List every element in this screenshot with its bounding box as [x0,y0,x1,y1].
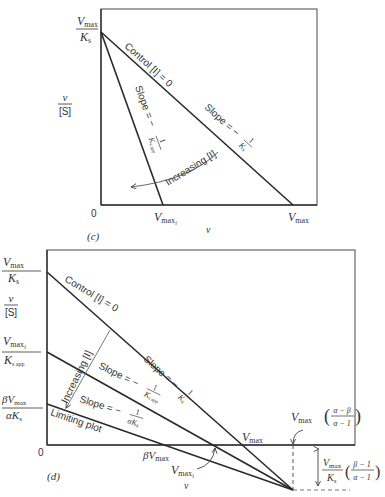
svg-text:): ) [355,406,361,427]
svg-text:): ) [375,463,380,481]
increasing-label: Increasing [I] [163,148,218,188]
y-intercept-label: Vmax Ks [76,14,98,45]
svg-text:Slope = −: Slope = − [142,353,181,390]
svg-text:Vmaxi: Vmaxi [3,334,26,350]
svg-text:Ks app: Ks app [146,135,160,154]
svg-text:v: v [63,91,68,103]
intersection-y-label: Vmax Ks ( β − 1 α − 1 ) [322,457,380,485]
svg-text:Vmax: Vmax [291,410,312,425]
y-axis-label: v [S] [4,292,18,318]
svg-text:αKs: αKs [6,409,22,423]
x-axis-label: v [206,224,211,235]
svg-text:βVmax: βVmax [1,393,27,407]
x-intercept-limiting: βVmax [142,449,169,463]
origin-label: 0 [38,447,44,458]
x-axis-label: v [184,480,189,491]
svg-text:Slope = −: Slope = − [203,101,242,138]
svg-text:1: 1 [134,407,140,417]
intersection-x-label: Vmax ( α − β α − 1 ) [291,406,361,428]
svg-text:Slope = −: Slope = − [133,84,158,128]
x-intercept-inhibited: Vmaxi [154,210,177,226]
panel-d: Vmax Ks v [S] Vmaxi Ks app βVmax αKs Con… [1,250,380,491]
limiting-plot-label: Limiting plot [49,406,103,434]
panel-caption: (d) [47,470,60,483]
svg-text:Vmax: Vmax [77,14,98,29]
slope-inhibited-label: Slope = − 1 Ks app [128,83,170,155]
svg-text:1: 1 [158,137,168,144]
x-intercept-inhibited: Vmaxi [171,463,194,479]
svg-text:(: ( [345,463,350,481]
svg-text:αKs: αKs [126,416,141,428]
x-intercept-control: Vmax [242,430,263,445]
svg-text:α − 1: α − 1 [333,419,351,428]
svg-text:α − 1: α − 1 [353,473,371,482]
y-intercept-control-label: Vmax Ks [2,255,41,286]
intersection-x-pointer [293,430,303,444]
control-line [101,32,293,205]
svg-text:α − β: α − β [333,406,351,415]
svg-text:Ks app: Ks app [142,389,161,405]
y-intercept-limiting-label: βVmax αKs [1,393,43,423]
vmaxi-pointer [197,448,215,469]
x-intercept-control: Vmax [288,210,309,225]
y-intercept-inhibited-label: Vmaxi Ks app [2,334,41,367]
svg-text:Ks: Ks [7,271,19,286]
panel-c: Vmax Ks v [S] Control [I] = 0 Slope = − … [58,9,317,243]
svg-text:Ks app: Ks app [3,353,25,367]
svg-text:Ks: Ks [326,472,337,485]
svg-text:v: v [9,292,14,304]
svg-text:β − 1: β − 1 [352,460,370,469]
control-label: Control [I] = 0 [123,40,176,89]
svg-text:Ks: Ks [79,30,91,45]
svg-text:[S]: [S] [59,106,71,117]
eadie-hofstee-diagram: Vmax Ks v [S] Control [I] = 0 Slope = − … [0,0,385,497]
svg-text:Vmax: Vmax [323,457,342,470]
svg-text:[S]: [S] [5,307,17,318]
svg-text:Vmax: Vmax [3,255,24,270]
origin-label: 0 [91,208,97,219]
svg-text:Slope = −: Slope = − [78,393,122,416]
y-axis-label: v [S] [58,91,72,117]
panel-caption: (c) [87,230,100,243]
svg-text:(: ( [324,406,330,427]
